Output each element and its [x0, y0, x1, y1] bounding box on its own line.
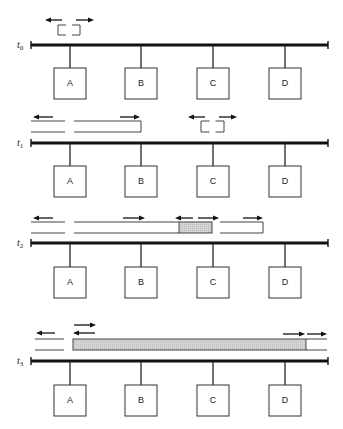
station-label: C [210, 395, 217, 405]
station-c: C [197, 361, 229, 416]
arrow-icon [45, 18, 62, 23]
station-b: B [125, 143, 157, 197]
station-b: B [125, 243, 157, 298]
time-label: t1 [17, 137, 24, 150]
arrow-icon [76, 18, 94, 23]
arrow-icon [283, 332, 305, 337]
arrow-icon [36, 331, 55, 336]
station-label: C [210, 277, 217, 287]
arrow-head [213, 216, 219, 221]
timeline-row-t2: t2ABCD [17, 216, 328, 299]
bracket-left [58, 25, 66, 35]
arrow-head [257, 216, 263, 221]
arrow-head [299, 332, 305, 337]
arrow-head [88, 18, 94, 23]
arrow-head [45, 18, 51, 23]
station-a: A [54, 361, 86, 416]
station-a: A [54, 243, 86, 298]
station-label: D [282, 277, 289, 287]
arrow-head [36, 331, 42, 336]
arrow-head [73, 331, 79, 336]
arrow-icon [33, 115, 53, 120]
station-label: D [282, 78, 289, 88]
arrow-head [33, 216, 39, 221]
station-d: D [269, 143, 301, 197]
bracket-right [72, 25, 80, 35]
arrow-icon [74, 323, 96, 328]
arrow-head [33, 115, 39, 120]
arrow-head [139, 216, 145, 221]
station-b: B [125, 45, 157, 99]
station-label: A [67, 78, 73, 88]
arrow-icon [175, 216, 193, 221]
time-label: t2 [17, 237, 24, 250]
station-label: B [138, 176, 144, 186]
bracket-right [216, 121, 225, 132]
arrow-icon [188, 115, 205, 120]
bus-collision-diagram: t0ABCDt1ABCDt2ABCDt3ABCD [0, 0, 343, 429]
station-label: D [282, 395, 289, 405]
station-a: A [54, 143, 86, 197]
station-label: B [138, 395, 144, 405]
time-label-subscript: 0 [20, 44, 24, 52]
signal-start-bracket [58, 25, 80, 35]
station-d: D [269, 243, 301, 298]
station-d: D [269, 45, 301, 99]
station-label: A [67, 395, 73, 405]
station-d: D [269, 361, 301, 416]
station-label: A [67, 176, 73, 186]
timeline-rows: t0ABCDt1ABCDt2ABCDt3ABCD [17, 18, 328, 417]
collision-region [179, 222, 212, 233]
bracket-left [201, 121, 210, 132]
signal-start-bracket [201, 121, 224, 132]
station-label: C [210, 176, 217, 186]
arrow-icon [219, 115, 237, 120]
arrow-head [188, 115, 194, 120]
timeline-row-t3: t3ABCD [17, 323, 328, 417]
station-label: D [282, 176, 289, 186]
arrow-icon [120, 115, 140, 120]
station-c: C [197, 143, 229, 197]
station-label: B [138, 78, 144, 88]
arrow-head [134, 115, 140, 120]
arrow-head [90, 323, 96, 328]
arrow-head [321, 332, 327, 337]
time-label-subscript: 2 [20, 242, 24, 250]
arrow-icon [73, 331, 95, 336]
station-label: C [210, 78, 217, 88]
time-label-subscript: 1 [20, 142, 24, 150]
arrow-icon [198, 216, 219, 221]
timeline-row-t0: t0ABCD [17, 18, 328, 100]
arrow-icon [307, 332, 327, 337]
time-label-subscript: 3 [20, 360, 24, 368]
station-label: A [67, 277, 73, 287]
arrow-icon [33, 216, 53, 221]
arrow-head [231, 115, 237, 120]
station-label: B [138, 277, 144, 287]
station-a: A [54, 45, 86, 99]
timeline-row-t1: t1ABCD [17, 115, 328, 198]
station-b: B [125, 361, 157, 416]
station-c: C [197, 45, 229, 99]
arrow-icon [123, 216, 145, 221]
time-label: t0 [17, 39, 24, 52]
arrow-head [175, 216, 181, 221]
time-label: t3 [17, 355, 24, 368]
collision-region [73, 339, 306, 350]
arrow-icon [243, 216, 263, 221]
station-c: C [197, 243, 229, 298]
